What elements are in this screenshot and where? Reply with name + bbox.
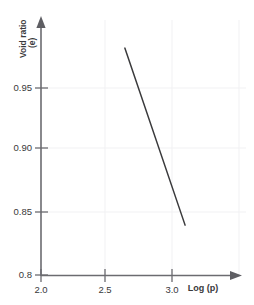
x-axis-title: Log (p) bbox=[188, 283, 219, 293]
y-tick-label-0_8: 0.8 bbox=[19, 269, 32, 280]
y-tick-label-0_95: 0.95 bbox=[14, 82, 33, 93]
x-tick-label-2_0: 2.0 bbox=[34, 284, 47, 295]
y-tick-label-0_90: 0.90 bbox=[14, 142, 33, 153]
chart-container: 0.95 0.90 0.85 0.8 2.0 2.5 3.0 Void rati… bbox=[0, 0, 254, 305]
void-ratio-log-p-chart: 0.95 0.90 0.85 0.8 2.0 2.5 3.0 Void rati… bbox=[0, 0, 254, 305]
x-tick-label-2_5: 2.5 bbox=[98, 284, 111, 295]
y-axis-title-line2: (e) bbox=[27, 37, 37, 48]
y-tick-label-0_85: 0.85 bbox=[14, 206, 33, 217]
x-tick-label-3_0: 3.0 bbox=[165, 284, 178, 295]
chart-background bbox=[0, 0, 254, 305]
